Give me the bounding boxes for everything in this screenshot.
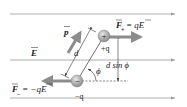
positive-charge: +: [98, 30, 110, 42]
negative-charge-label: −q: [75, 92, 84, 101]
plus-sign: +: [101, 31, 106, 41]
field-label: E: [30, 48, 37, 58]
svg-text:−: −: [17, 91, 21, 97]
dipole-diagram: + − E p d +q −q ϕ d sin ϕ F + = qE F − =…: [0, 0, 187, 107]
minus-sign: −: [74, 76, 79, 86]
force-negative-label: F − = −qE: [11, 84, 52, 97]
angle-label: ϕ: [96, 66, 101, 76]
negative-charge: −: [71, 75, 83, 87]
dipole-moment-label: p: [63, 27, 69, 37]
svg-text:+: +: [121, 27, 125, 33]
angle-arc: [88, 69, 96, 81]
separation-label: d: [74, 48, 79, 58]
svg-text:= −qE: = −qE: [22, 84, 47, 94]
positive-charge-label: +q: [101, 44, 110, 53]
force-positive-label: F + = qE: [115, 20, 151, 33]
lever-arm-label: d sin ϕ: [106, 60, 129, 70]
svg-text:= qE: = qE: [126, 20, 145, 30]
